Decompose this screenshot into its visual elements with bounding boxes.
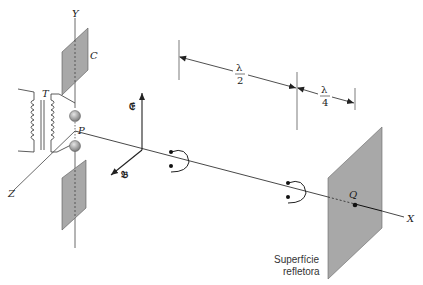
transformer-label: T [42, 88, 50, 99]
wave-diagram: Y C T P Z [0, 0, 423, 285]
loop-detector-1 [169, 150, 189, 172]
dimension-half-wavelength: λ 2 [179, 40, 297, 130]
point-q-label: Q [349, 189, 357, 200]
y-axis-label: Y [72, 8, 80, 19]
surface-label-line2: refletora [283, 266, 320, 277]
quarter-wavelength-numerator: λ [321, 84, 328, 95]
half-wavelength-denominator: 2 [237, 75, 243, 86]
loop-detector-2 [286, 181, 306, 203]
half-wavelength-numerator: λ [236, 62, 243, 73]
surface-label-line1: Superfície [274, 254, 319, 265]
spark-gap: P [70, 111, 86, 152]
field-vectors: 𝔈 𝔅 [111, 93, 142, 180]
point-p-label: P [77, 125, 85, 136]
capacitor-label: C [90, 50, 98, 61]
z-axis-label: Z [7, 188, 16, 199]
point-q [353, 203, 358, 208]
electric-field-label: 𝔈 [129, 101, 136, 112]
capacitor-plate-upper: C [62, 28, 98, 95]
capacitor-plate-lower [62, 160, 86, 230]
dimension-quarter-wavelength: λ 4 [298, 84, 355, 110]
x-axis-label: X [406, 213, 415, 224]
magnetic-field-label: 𝔅 [120, 169, 129, 180]
quarter-wavelength-denominator: 4 [322, 97, 328, 108]
